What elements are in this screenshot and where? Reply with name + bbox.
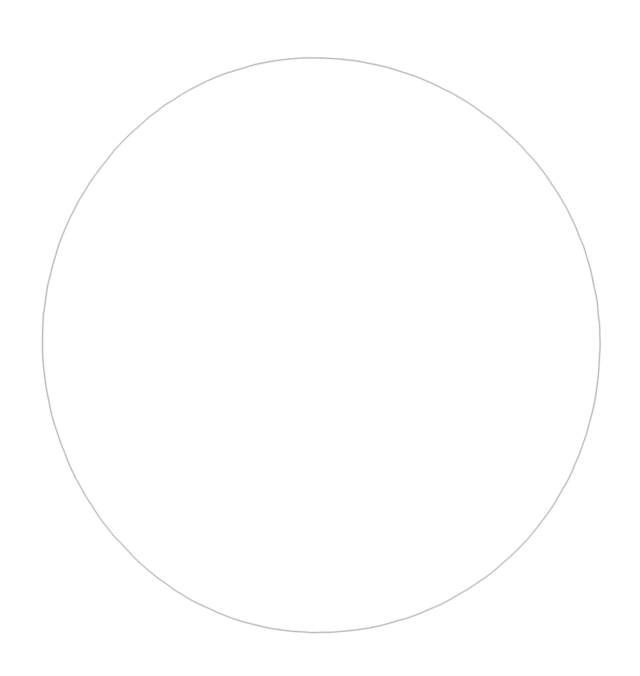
drawing-canvas — [0, 0, 640, 676]
canvas-background — [0, 0, 640, 676]
circle-sketch-svg — [0, 0, 640, 676]
